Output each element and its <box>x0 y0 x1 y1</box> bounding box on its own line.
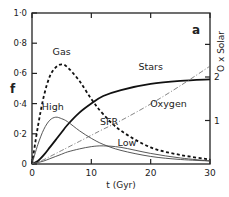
annotation-gas: Gas <box>53 46 71 57</box>
x-axis-label: t (Gyr) <box>106 180 135 190</box>
series-lines <box>32 64 210 164</box>
panel-label: a <box>192 23 200 37</box>
series-gas <box>32 64 210 164</box>
y-tick-label: 0·4 <box>13 99 27 109</box>
y2-tick-label: 2 <box>214 72 220 82</box>
y-axis-label: f <box>10 82 16 96</box>
x-tick-label: 30 <box>204 168 216 178</box>
y-tick-label: 1·0 <box>13 8 27 18</box>
y-tick-label: 0·8 <box>13 38 27 48</box>
annotation-oxygen: Oxygen <box>150 98 187 109</box>
y2-tick-label: 1 <box>214 116 220 126</box>
y-tick-label: 0 <box>22 159 27 169</box>
x-tick-label: 10 <box>86 168 98 178</box>
axes: 010203000·20·40·60·81·012t (Gyr)fO x Sol… <box>10 8 226 190</box>
x-tick-label: 0 <box>29 168 35 178</box>
chart: 010203000·20·40·60·81·012t (Gyr)fO x Sol… <box>0 0 229 197</box>
annotation-stars: Stars <box>138 61 162 72</box>
y-tick-label: 0·2 <box>13 129 27 139</box>
series-stars <box>32 79 210 164</box>
annotation-sfr: SFR <box>100 116 118 127</box>
annotation-low: Low <box>118 137 137 148</box>
annotations: GasStarsOxygenHighSFRLow <box>42 46 187 148</box>
x-tick-label: 20 <box>145 168 157 178</box>
y2-axis-label: O x Solar <box>216 31 226 72</box>
y-tick-label: 0·6 <box>13 68 27 78</box>
annotation-high: High <box>42 101 64 112</box>
